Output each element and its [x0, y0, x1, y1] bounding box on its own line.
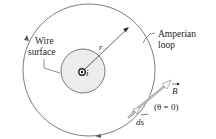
amperian-loop-label-line1: Amperian	[158, 29, 196, 39]
angle-note: (θ = 0)	[154, 102, 178, 112]
radius-arrowhead	[123, 27, 129, 32]
amperian-loop-diagram: i r Wire surface Amperian loop B ds (θ =…	[0, 0, 216, 139]
current-dot	[81, 71, 83, 73]
field-vector-label: B	[172, 86, 178, 96]
loop-direction-arrow-bottom	[95, 134, 101, 138]
wire-surface-label-line2: surface	[28, 47, 55, 57]
field-vector-overarrow-head	[177, 83, 180, 86]
radius-label: r	[99, 42, 103, 52]
amperian-loop-label-line2: loop	[158, 40, 175, 50]
loop-direction-arrow-left	[24, 35, 29, 41]
length-element-overarrow	[141, 114, 148, 115]
wire-surface-label-line1: Wire	[35, 36, 54, 46]
wire-surface-leader	[44, 59, 60, 73]
length-element-label: ds	[136, 117, 145, 127]
radius-line	[84, 29, 127, 70]
